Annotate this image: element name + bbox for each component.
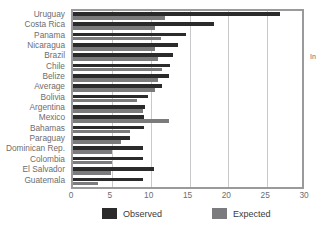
bar-observed [73,33,186,37]
bar-row [73,83,302,93]
category-label: Uruguay [0,9,68,19]
bar-observed [73,115,144,119]
bar-observed [73,84,162,88]
bar-row [73,125,302,135]
category-label: Argentina [0,102,68,112]
bar-observed [73,126,144,130]
category-axis-labels: UruguayCosta RicaPanamaNicaraguaBrazilCh… [0,9,68,189]
bar-row [73,94,302,104]
bar-observed [73,95,148,99]
axis-tick-label: 30 [299,190,308,200]
bar-expected [73,119,169,123]
bar-expected [73,150,112,154]
bar-expected [73,37,161,41]
bar-expected [73,109,143,113]
bar-expected [73,99,137,103]
bar-expected [73,140,121,144]
bar-expected [73,171,111,175]
legend-swatch-expected-icon [212,208,227,219]
legend-label-expected: Expected [233,209,271,219]
bar-row [73,145,302,155]
legend-item-observed: Observed [102,208,162,219]
category-label: Chile [0,61,68,71]
bar-row [73,177,302,187]
bar-expected [73,88,155,92]
bar-row [73,114,302,124]
bar-observed [73,146,143,150]
bar-row [73,32,302,42]
bar-observed [73,43,178,47]
bar-row [73,52,302,62]
bar-row [73,21,302,31]
bar-expected [73,130,130,134]
bar-observed [73,105,145,109]
bar-expected [73,78,158,82]
value-axis: 051015202530 [71,190,304,204]
bar-row [73,104,302,114]
bar-observed [73,64,170,68]
category-label: Panama [0,30,68,40]
axis-tick-label: 0 [69,190,74,200]
category-label: Costa Rica [0,19,68,29]
axis-tick-label: 15 [183,190,192,200]
bar-observed [73,136,130,140]
bar-observed [73,22,214,26]
bar-expected [73,26,155,30]
bar-observed [73,178,143,182]
bar-row [73,11,302,21]
bar-expected [73,47,155,51]
bar-observed [73,53,173,57]
bar-row [73,63,302,73]
bar-observed [73,12,280,16]
axis-tick-label: 25 [261,190,270,200]
bar-observed [73,157,143,161]
category-label: Paraguay [0,133,68,143]
bar-row [73,135,302,145]
bar-row [73,156,302,166]
category-label: Dominican Rep. [0,143,68,153]
category-label: Bahamas [0,123,68,133]
category-label: Nicaragua [0,40,68,50]
bar-expected [73,161,112,165]
category-label: El Salvador [0,164,68,174]
bar-chart: In UruguayCosta RicaPanamaNicaraguaBrazi… [0,0,320,233]
chart-title [62,0,242,3]
category-label: Average [0,81,68,91]
legend-swatch-observed-icon [102,208,117,219]
axis-tick-label: 20 [222,190,231,200]
bar-row [73,166,302,176]
axis-tick-label: 10 [144,190,153,200]
right-edge-note: In [310,52,320,66]
category-label: Belize [0,71,68,81]
axis-tick-label: 5 [108,190,113,200]
bar-expected [73,16,165,20]
category-label: Brazil [0,50,68,60]
category-label: Guatemala [0,175,68,185]
bar-observed [73,74,169,78]
bar-rows [73,11,302,187]
bar-observed [73,167,154,171]
bar-row [73,42,302,52]
bar-row [73,73,302,83]
legend-item-expected: Expected [212,208,271,219]
bar-expected [73,182,98,186]
plot-area [71,9,304,189]
bar-expected [73,68,162,72]
category-label: Mexico [0,112,68,122]
chart-legend: Observed Expected [71,208,304,228]
bar-expected [73,57,158,61]
category-label: Bolivia [0,92,68,102]
legend-label-observed: Observed [123,209,162,219]
category-label: Colombia [0,154,68,164]
